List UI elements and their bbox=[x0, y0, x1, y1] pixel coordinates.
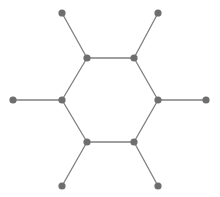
graph-vertex-p5 bbox=[58, 182, 65, 189]
graph-vertex-c3 bbox=[154, 96, 161, 103]
graph-vertex-c1 bbox=[83, 54, 90, 61]
graph-edge-c5-p5 bbox=[62, 142, 87, 186]
graph-vertex-c6 bbox=[58, 96, 65, 103]
graph-edge-c2-c3 bbox=[134, 58, 158, 100]
graph-edge-c3-c4 bbox=[134, 100, 158, 142]
graph-edge-c4-p4 bbox=[134, 142, 158, 186]
graph-edge-c5-c6 bbox=[62, 100, 87, 142]
edge-layer bbox=[13, 13, 206, 186]
graph-vertex-p3 bbox=[202, 96, 209, 103]
graph-edge-c1-p1 bbox=[62, 13, 87, 58]
graph-vertex-p2 bbox=[154, 9, 161, 16]
graph-vertex-c4 bbox=[130, 138, 137, 145]
graph-figure bbox=[0, 0, 220, 197]
graph-canvas bbox=[0, 0, 220, 197]
graph-vertex-p4 bbox=[154, 182, 161, 189]
graph-vertex-p6 bbox=[9, 96, 16, 103]
graph-edge-c6-c1 bbox=[62, 58, 87, 100]
graph-vertex-c5 bbox=[83, 138, 90, 145]
graph-vertex-c2 bbox=[130, 54, 137, 61]
graph-edge-c2-p2 bbox=[134, 13, 158, 58]
graph-vertex-p1 bbox=[58, 9, 65, 16]
